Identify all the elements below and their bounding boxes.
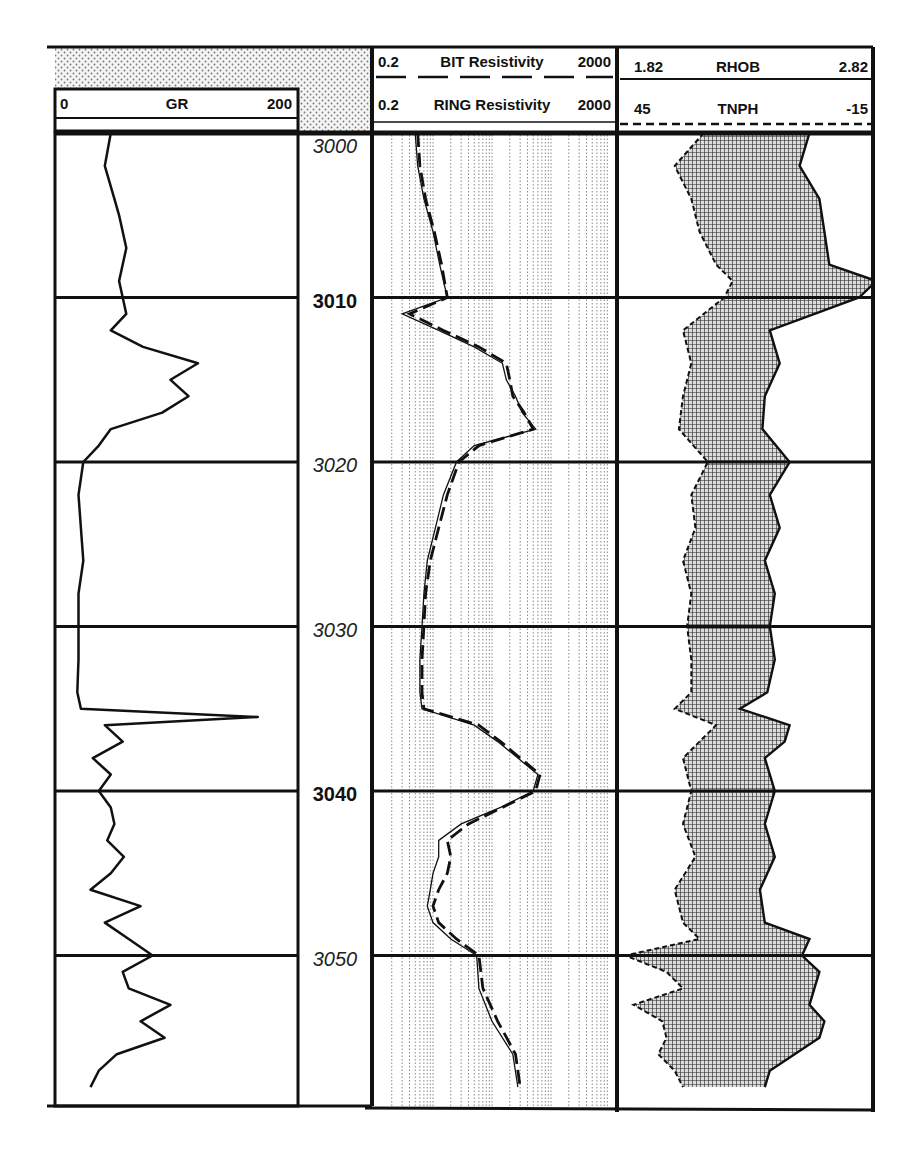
bit-curve-label: BIT Resistivity — [440, 53, 544, 70]
depth-label-3000: 3000 — [313, 135, 358, 157]
depth-labels: 300030103020303030403050 — [313, 135, 358, 970]
crossover-shading — [625, 133, 876, 1087]
well-log-chart: 0 GR 200 0.2 BIT Resistivity 2000 0.2 RI… — [0, 0, 918, 1152]
rhob-curve-label: RHOB — [716, 58, 760, 75]
ring-max-label: 2000 — [578, 96, 611, 113]
depth-label-3010: 3010 — [313, 290, 358, 312]
tnph-curve-label: TNPH — [718, 100, 759, 117]
gr-curve-label: GR — [166, 95, 189, 112]
depth-label-3030: 3030 — [313, 619, 358, 641]
gr-curve — [77, 133, 257, 1087]
density-neutron-crossover-fill — [625, 133, 876, 1087]
density-neutron-header: 1.82 RHOB 2.82 45 TNPH -15 — [617, 48, 873, 132]
depth-header-shaded — [298, 88, 372, 132]
gr-min-label: 0 — [60, 95, 68, 112]
gr-max-label: 200 — [267, 95, 292, 112]
gr-header: 0 GR 200 — [55, 89, 298, 131]
tnph-max-label: -15 — [846, 100, 868, 117]
rhob-min-label: 1.82 — [634, 58, 663, 75]
header-shaded-band — [55, 48, 372, 90]
ring-curve-label: RING Resistivity — [434, 96, 551, 113]
rhob-max-label: 2.82 — [839, 58, 868, 75]
ring-resistivity-curve — [402, 133, 538, 1087]
depth-label-3020: 3020 — [313, 454, 358, 476]
bit-max-label: 2000 — [578, 53, 611, 70]
bit-min-label: 0.2 — [378, 53, 399, 70]
depth-label-3040: 3040 — [313, 783, 358, 805]
depth-label-3050: 3050 — [313, 948, 358, 970]
gr-track-frame — [55, 133, 298, 1106]
tnph-min-label: 45 — [634, 100, 651, 117]
ring-min-label: 0.2 — [378, 96, 399, 113]
resistivity-log-grid — [392, 135, 608, 1106]
resistivity-header: 0.2 BIT Resistivity 2000 0.2 RING Resist… — [372, 48, 617, 132]
header-area: 0 GR 200 0.2 BIT Resistivity 2000 0.2 RI… — [55, 48, 873, 132]
